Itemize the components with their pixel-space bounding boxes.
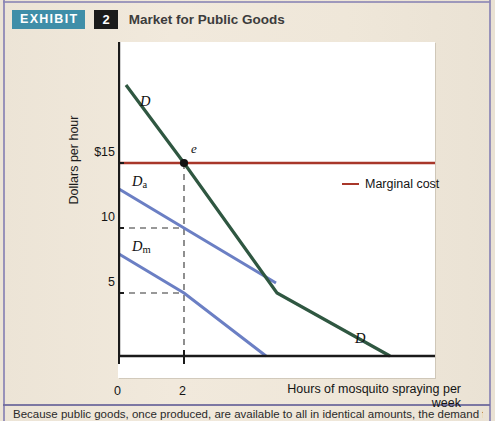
- right-edge-rule: [489, 0, 491, 421]
- figure-caption: Because public goods, once produced, are…: [13, 408, 483, 421]
- left-edge-rule: [3, 0, 5, 421]
- exhibit-number-badge: 2: [94, 10, 117, 29]
- top-divider: [3, 1, 490, 3]
- page-title: Market for Public Goods: [129, 12, 285, 27]
- exhibit-header: EXHIBIT 2 Market for Public Goods: [12, 8, 285, 30]
- figure-panel: Dollars per hour $15 10 5: [13, 33, 481, 400]
- x-axis-title: Hours of mosquito spraying per week: [275, 382, 461, 410]
- exhibit-figure-page: EXHIBIT 2 Market for Public Goods Dollar…: [0, 0, 495, 421]
- exhibit-badge: EXHIBIT: [12, 10, 85, 29]
- x-tick-label-2: 2: [179, 384, 186, 398]
- x-tick-label-0: 0: [114, 384, 121, 398]
- x-axis-tick-labels: 0 2: [13, 33, 481, 400]
